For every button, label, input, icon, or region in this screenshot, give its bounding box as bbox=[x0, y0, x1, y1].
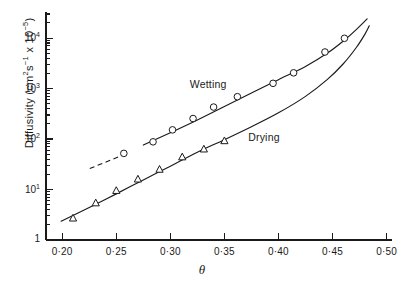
y-tick-label: 102 bbox=[6, 132, 40, 144]
data-point-wetting bbox=[290, 70, 297, 77]
y-tick-label: 104 bbox=[6, 31, 40, 43]
data-point-drying bbox=[200, 145, 207, 152]
data-point-wetting bbox=[234, 93, 241, 100]
data-point-drying bbox=[113, 187, 120, 194]
figure-container: Diffusivity (cm2s−1 x 10−5) θ 1101102103… bbox=[0, 0, 404, 285]
data-point-wetting bbox=[270, 80, 277, 87]
x-tick-label: 0·30 bbox=[148, 246, 192, 257]
x-tick-label: 0·25 bbox=[94, 246, 138, 257]
y-tick-label: 101 bbox=[6, 183, 40, 195]
data-point-wetting bbox=[169, 127, 176, 134]
data-point-wetting bbox=[210, 104, 217, 111]
y-tick-label: 103 bbox=[6, 82, 40, 94]
x-tick-label: 0·45 bbox=[311, 246, 355, 257]
data-point-wetting bbox=[150, 139, 157, 146]
data-point-wetting bbox=[190, 115, 197, 122]
series-line-wetting bbox=[143, 19, 367, 145]
x-tick-label: 0·40 bbox=[256, 246, 300, 257]
data-point-drying bbox=[69, 214, 76, 221]
x-tick-label: 0·20 bbox=[40, 246, 84, 257]
x-tick-label: 0·35 bbox=[202, 246, 246, 257]
data-point-wetting bbox=[121, 150, 128, 157]
data-point-drying bbox=[134, 175, 141, 182]
chart-plot-area bbox=[0, 0, 404, 285]
series-label-drying: Drying bbox=[248, 131, 280, 143]
data-point-wetting bbox=[322, 49, 329, 56]
y-tick-label: 1 bbox=[6, 233, 40, 244]
series-dashed-extension-wetting bbox=[90, 154, 125, 168]
x-tick-label: 0·50 bbox=[365, 246, 404, 257]
series-group bbox=[61, 19, 369, 221]
data-point-drying bbox=[156, 166, 163, 173]
data-point-drying bbox=[179, 153, 186, 160]
series-label-wetting: Wetting bbox=[190, 78, 227, 90]
data-point-wetting bbox=[341, 35, 348, 42]
